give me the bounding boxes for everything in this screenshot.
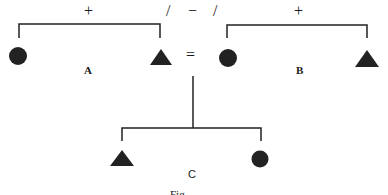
triangle-c-icon bbox=[110, 150, 134, 166]
bracket-a bbox=[19, 24, 160, 38]
plus-left: + bbox=[84, 2, 93, 20]
circle-b-icon bbox=[219, 49, 237, 67]
equals: = bbox=[186, 46, 195, 64]
label-c: C bbox=[188, 168, 196, 180]
plus-right: + bbox=[294, 2, 303, 20]
bracket-c bbox=[122, 128, 261, 141]
triangle-a-icon bbox=[150, 49, 172, 65]
slash-right: / bbox=[213, 2, 217, 20]
caption: Fig. bbox=[170, 188, 187, 195]
label-a: A bbox=[84, 64, 92, 76]
slash-left: / bbox=[166, 2, 170, 20]
label-b: B bbox=[296, 64, 303, 76]
circle-c-icon bbox=[252, 151, 269, 168]
minus: − bbox=[188, 2, 197, 20]
triangle-b-icon bbox=[355, 50, 379, 67]
circle-a-icon bbox=[9, 47, 27, 65]
diagram-canvas bbox=[0, 0, 388, 195]
bracket-b bbox=[227, 25, 367, 38]
